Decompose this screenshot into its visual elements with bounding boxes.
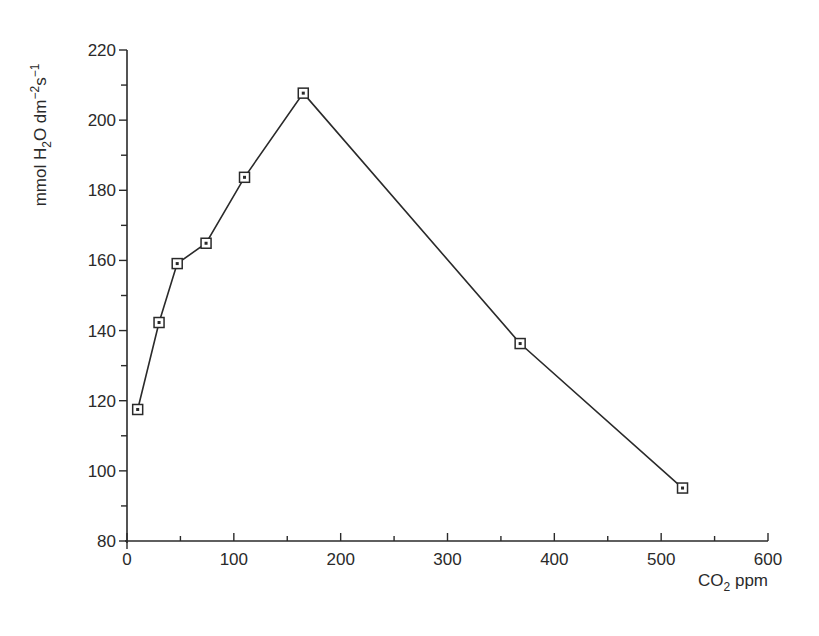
x-tick-label: 300 xyxy=(433,550,461,569)
y-tick-label: 80 xyxy=(97,532,116,551)
x-tick-label: 600 xyxy=(754,550,782,569)
marker-center-dot xyxy=(176,262,179,265)
y-axis: 80100120140160180200220 xyxy=(88,41,127,551)
marker-center-dot xyxy=(136,408,139,411)
y-tick-label: 160 xyxy=(88,251,116,270)
x-tick-label: 100 xyxy=(220,550,248,569)
x-tick-label: 400 xyxy=(540,550,568,569)
line-chart: 80100120140160180200220 0100200300400500… xyxy=(0,0,819,636)
y-axis-title: mmol H2O dm−2s−1 xyxy=(28,63,54,206)
x-tick-label: 500 xyxy=(647,550,675,569)
series-line xyxy=(138,93,683,488)
y-tick-label: 180 xyxy=(88,181,116,200)
marker-center-dot xyxy=(243,176,246,179)
y-tick-label: 200 xyxy=(88,111,116,130)
marker-center-dot xyxy=(519,342,522,345)
y-tick-label: 100 xyxy=(88,462,116,481)
x-axis: 0100200300400500600 xyxy=(122,533,782,569)
x-axis-title: CO2 ppm xyxy=(698,571,768,594)
y-tick-label: 120 xyxy=(88,392,116,411)
marker-center-dot xyxy=(681,487,684,490)
marker-center-dot xyxy=(302,92,305,95)
y-tick-label: 140 xyxy=(88,322,116,341)
x-tick-label: 200 xyxy=(326,550,354,569)
data-series xyxy=(133,88,688,493)
x-tick-label: 0 xyxy=(122,550,131,569)
y-tick-label: 220 xyxy=(88,41,116,60)
marker-center-dot xyxy=(158,321,161,324)
marker-center-dot xyxy=(205,242,208,245)
